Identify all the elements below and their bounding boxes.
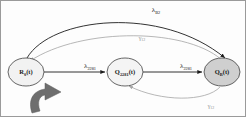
node-q2281[interactable]: Q2281(t)	[107, 58, 143, 86]
figure-canvas: λ2281 λ2281 λB2 γ12	[0, 0, 246, 117]
curved-pointer-arrow	[31, 83, 61, 113]
edge-r0-to-qb-top: λB2	[27, 6, 225, 58]
edge-r0-to-q2281: λ2281	[44, 62, 105, 72]
node-qb[interactable]: QB(t)	[204, 58, 240, 86]
edge-qb-to-q2281-return: γ12	[129, 86, 220, 110]
edge-label-lambda-2281-right: λ2281	[180, 62, 192, 71]
edge-label-lambda-b2: λB2	[152, 6, 160, 15]
state-transition-diagram: λ2281 λ2281 λB2 γ12	[1, 1, 246, 117]
node-r0[interactable]: R0(t)	[8, 58, 44, 86]
edge-label-lambda-2281-left: λ2281	[84, 62, 96, 71]
edge-q2281-to-qb: λ2281	[143, 62, 202, 72]
edge-label-gamma-12-bottom: γ12	[207, 103, 215, 110]
